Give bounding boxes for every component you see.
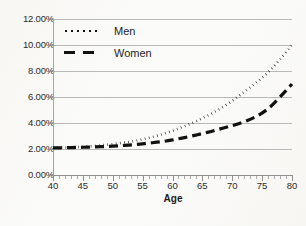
x-axis-tick-label: 70 [219,180,245,191]
x-axis-tick-label: 80 [279,180,305,191]
x-axis-tick-minor [196,176,197,179]
x-axis-tick-minor [65,176,66,179]
x-axis-tick-minor [220,176,221,179]
legend-dot [77,30,79,32]
x-axis-title: Age [53,193,293,204]
x-axis-tick-minor [238,176,239,179]
legend-dot [71,30,73,32]
x-axis-tick-minor [268,176,269,179]
x-axis-tick-minor [131,176,132,179]
chart-figure: 0.00%2.00%4.00%6.00%8.00%10.00%12.00% 40… [0,0,306,226]
series-path [53,84,292,148]
x-axis-tick-minor [95,176,96,179]
x-axis-tick-minor [226,176,227,179]
x-axis-tick-label: 45 [70,180,96,191]
legend-item-women: Women [62,42,182,64]
x-axis-tick-label: 60 [160,180,186,191]
x-axis-tick-minor [214,176,215,179]
x-axis-tick-minor [71,176,72,179]
legend-item-men: Men [62,20,182,42]
dotted-line-marker-icon [62,25,107,37]
x-axis-tick-minor [59,176,60,179]
x-axis-tick-minor [101,176,102,179]
x-axis-tick-label: 55 [130,180,156,191]
legend-dot [89,30,91,32]
x-axis-tick-minor [244,176,245,179]
x-axis-tick-minor [178,176,179,179]
x-axis-tick-minor [184,176,185,179]
x-axis-tick-minor [280,176,281,179]
x-axis-tick-label: 65 [189,180,215,191]
x-axis-tick-minor [250,176,251,179]
legend-dot [83,30,85,32]
x-axis-tick-minor [149,176,150,179]
legend-dot [65,30,67,32]
x-axis-tick-minor [161,176,162,179]
legend-dash [64,51,75,54]
x-axis-tick-minor [107,176,108,179]
chart-legend: Men Women [62,20,182,64]
dashed-line-marker-icon [62,47,107,59]
x-axis-tick-minor [155,176,156,179]
legend-dot [95,30,97,32]
x-axis-tick-label: 40 [40,180,66,191]
x-axis-tick-minor [190,176,191,179]
x-axis-tick-minor [119,176,120,179]
legend-label-women: Women [114,47,152,59]
x-axis-tick-minor [77,176,78,179]
x-axis-tick-minor [286,176,287,179]
x-axis-tick-minor [208,176,209,179]
x-axis-tick-minor [125,176,126,179]
legend-label-men: Men [114,25,135,37]
x-axis-tick-minor [89,176,90,179]
x-axis-tick-label: 50 [100,180,126,191]
x-axis-tick-minor [256,176,257,179]
legend-dash [83,51,94,54]
x-axis-tick-minor [167,176,168,179]
x-axis-tick-label: 75 [249,180,275,191]
x-axis-tick-minor [137,176,138,179]
x-axis-tick-minor [274,176,275,179]
